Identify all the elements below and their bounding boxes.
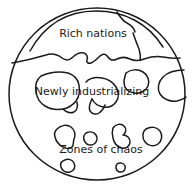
rich-nations-lower-boundary [12, 53, 180, 64]
rich-nations-inner-divider [133, 33, 140, 60]
diagram-canvas: Rich nations Newly industrializing Zones… [0, 0, 195, 189]
zone-label-newly-industrializing: Newly industrializing [35, 85, 149, 98]
newly-industrializing-blob-left-tail [63, 102, 77, 113]
zone-labels: Rich nations Newly industrializing Zones… [35, 27, 149, 156]
zone-label-zones-of-chaos: Zones of chaos [59, 143, 143, 156]
three-zone-world-diagram: Rich nations Newly industrializing Zones… [0, 0, 195, 189]
newly-industrializing-blob-right-edge [158, 70, 186, 101]
chaos-blob-6 [116, 163, 125, 172]
chaos-blob-4 [143, 127, 162, 145]
zone-label-rich-nations: Rich nations [59, 27, 127, 40]
chaos-blob-5 [61, 159, 75, 172]
